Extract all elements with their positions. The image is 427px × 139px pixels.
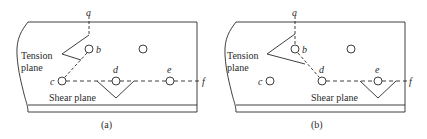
label-f-b: f [409,76,413,87]
label-b-b: b [302,44,307,55]
label-f-a: f [202,76,206,87]
hole-d-a [112,77,120,85]
label-a-b: a [292,7,297,18]
block-shear-diagram: a b c d e f Tension plane Shear plane (a… [0,0,427,139]
label-d-a: d [113,64,119,75]
hole-e-a [166,77,174,85]
shear-label-b: Shear plane [311,92,358,103]
shear-label-a: Shear plane [49,92,96,103]
hole-c-b [266,77,274,85]
tension-label-a-1: Tension [21,50,53,61]
tension-label-b-1: Tension [227,50,259,61]
hole-c-a [58,77,66,85]
shear-leader-b [360,81,396,98]
tension-label-a-2: plane [21,62,43,73]
hole-b-a [85,45,93,53]
tension-label-b-2: plane [227,62,249,73]
hole-e-b [374,77,382,85]
label-e-b: e [375,64,380,75]
hole-d-b [318,77,326,85]
caption-a: (a) [101,119,112,131]
hole-b-b [291,45,299,53]
hole-top-right-b [347,45,355,53]
caption-b: (b) [311,119,323,131]
label-d-b: d [319,64,325,75]
shear-leader-a [97,81,134,98]
label-b-a: b [96,44,101,55]
hole-top-right-a [139,45,147,53]
label-c-a: c [50,76,55,87]
panel-a [17,16,200,112]
label-c-b: c [258,76,263,87]
label-e-a: e [167,64,172,75]
label-a-a: a [86,7,91,18]
